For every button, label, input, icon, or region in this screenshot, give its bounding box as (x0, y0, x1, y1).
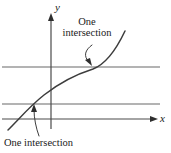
increasing-curve (8, 31, 125, 130)
callout-top-line1: One (78, 16, 96, 27)
callout-bottom-intersection: One intersection (4, 138, 73, 149)
x-axis-arrowhead (150, 116, 158, 122)
callout-top-line2: intersection (59, 28, 115, 39)
y-axis-arrowhead (48, 13, 54, 21)
x-axis-label: x (160, 113, 165, 124)
y-axis-label: y (55, 2, 60, 13)
top-callout-arrowhead (85, 58, 92, 66)
callout-top-intersection: One intersection (59, 17, 115, 38)
bottom-callout-leader (34, 110, 39, 136)
figure-one-intersection: y x One intersection One intersection (0, 0, 171, 153)
